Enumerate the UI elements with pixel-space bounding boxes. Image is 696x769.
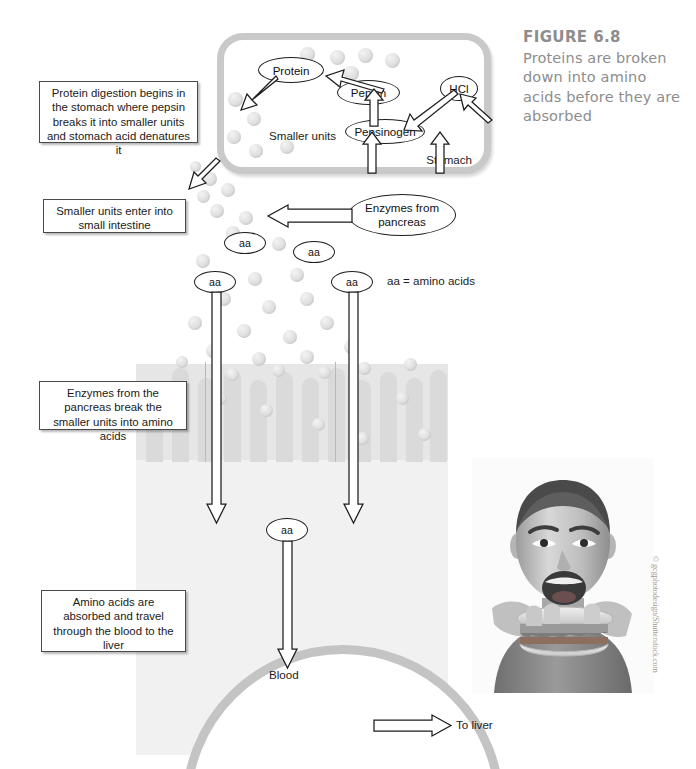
- protein-particle: [227, 130, 241, 144]
- protein-particle: [260, 404, 273, 417]
- protein-particle: [320, 316, 334, 330]
- amino-acid-label: aa: [281, 524, 293, 536]
- protein-particle: [290, 268, 304, 282]
- amino-acid-label: aa: [346, 276, 358, 288]
- photo-boy-eating-sandwich: [472, 458, 654, 693]
- protein-particle: [239, 211, 253, 225]
- lumen-divider: [205, 362, 206, 462]
- right-absorption-arrow: [344, 292, 364, 524]
- amino-acid-label: aa: [239, 237, 251, 249]
- figure-number: FIGURE 6.8: [523, 28, 688, 48]
- callout-absorption: Amino acids are absorbed and travel thro…: [41, 590, 186, 652]
- lumen-divider: [335, 362, 336, 462]
- protein-particle: [210, 204, 224, 218]
- protein-particle: [404, 358, 417, 371]
- pancreas-enzymes-node: Enzymes from pancreas: [348, 194, 456, 236]
- figure-canvas: FIGURE 6.8 Proteins are broken down into…: [0, 0, 696, 769]
- protein-particle: [226, 368, 239, 381]
- amino-acid-node: aa: [266, 518, 308, 542]
- to-liver-arrow: [374, 714, 452, 738]
- protein-particle: [247, 112, 261, 126]
- protein-particle: [262, 300, 276, 314]
- photo-credit: © gcgphotodesign/Shutterstock.com: [651, 556, 660, 696]
- callout-smaller-units-enter: Smaller units enter into small intestine: [43, 199, 186, 233]
- protein-particle: [176, 356, 188, 368]
- protein-particle: [237, 324, 251, 338]
- hcl-to-pepsinogen-arrow: [400, 92, 460, 132]
- villus: [430, 370, 447, 462]
- villus: [276, 372, 293, 462]
- villus: [328, 368, 345, 462]
- protein-particle: [249, 144, 263, 158]
- amino-acid-node: aa: [194, 271, 236, 293]
- protein-particle: [248, 272, 262, 286]
- left-absorption-arrow: [207, 292, 227, 524]
- villus: [380, 372, 397, 462]
- protein-particle: [280, 140, 294, 154]
- villus: [250, 380, 267, 462]
- amino-acid-label: aa: [209, 276, 221, 288]
- protein-particle: [312, 418, 325, 431]
- protein-particle: [252, 352, 266, 366]
- protein-particle: [272, 364, 285, 377]
- hcl-secretion-arrow: [430, 131, 450, 173]
- protein-particle: [358, 48, 373, 63]
- blood-label: Blood: [269, 668, 299, 681]
- to-liver-label: To liver: [456, 718, 493, 731]
- amino-acid-node: aa: [331, 271, 373, 293]
- pepsinogen-secretion-arrow: [362, 131, 382, 173]
- pepsinogen-to-pepsin-arrow: [364, 88, 384, 126]
- amino-acid-label: aa: [308, 246, 320, 258]
- figure-caption-text: Proteins are broken down into amino acid…: [523, 49, 688, 126]
- protein-particle: [283, 330, 297, 344]
- pancreas-enzymes-arrow: [266, 204, 352, 230]
- aa-to-blood-arrow: [278, 541, 298, 669]
- amino-acid-legend: aa = amino acids: [387, 274, 475, 287]
- amino-acid-node: aa: [224, 232, 266, 254]
- protein-particle: [385, 53, 400, 68]
- protein-particle: [188, 316, 202, 330]
- protein-particle: [196, 254, 210, 268]
- protein-node-label: Protein: [273, 64, 310, 77]
- pancreas-enzymes-label: Enzymes from pancreas: [349, 201, 455, 229]
- protein-particle: [330, 50, 345, 65]
- stomach-exit-arrow: [186, 160, 222, 192]
- protein-particle: [396, 392, 409, 405]
- protein-particle: [300, 292, 314, 306]
- villus: [406, 378, 423, 462]
- amino-acid-node: aa: [293, 241, 335, 263]
- protein-particle: [300, 350, 314, 364]
- protein-to-units-arrow: [236, 74, 278, 112]
- protein-particle: [418, 428, 431, 441]
- stomach-wall-to-hcl-arrow: [460, 90, 494, 124]
- figure-caption: FIGURE 6.8 Proteins are broken down into…: [523, 28, 688, 126]
- callout-stomach-digestion: Protein digestion begins in the stomach …: [39, 81, 198, 143]
- protein-particle: [221, 183, 235, 197]
- smaller-units-label: Smaller units: [269, 129, 336, 142]
- protein-particle: [318, 366, 331, 379]
- callout-pancreatic-enzymes: Enzymes from the pancreas break the smal…: [39, 381, 187, 430]
- protein-particle: [272, 237, 286, 251]
